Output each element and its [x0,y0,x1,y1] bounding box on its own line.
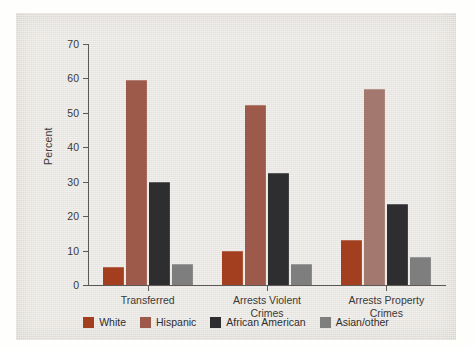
y-axis-title: Percent [42,127,54,165]
bar-group [341,44,431,285]
y-tick-label-40: 40 [67,141,79,153]
chart-legend: WhiteHispanicAfrican AmericanAsian/other [16,316,456,328]
legend-swatch-icon [210,317,221,328]
bar[interactable] [149,182,170,285]
x-tick [148,285,149,291]
y-tick-label-20: 20 [67,210,79,222]
bar[interactable] [387,204,408,285]
bar[interactable] [126,80,147,285]
y-tick-label-0: 0 [73,279,79,291]
legend-item[interactable]: Hispanic [140,316,196,328]
x-tick [267,285,268,291]
y-tick-20 [83,216,88,217]
legend-item[interactable]: White [83,316,126,328]
legend-label: White [99,316,126,328]
bar[interactable] [268,173,289,285]
legend-label: African American [226,316,305,328]
y-tick-label-10: 10 [67,245,79,257]
legend-label: Hispanic [156,316,196,328]
legend-item[interactable]: African American [210,316,305,328]
bar[interactable] [364,89,385,285]
bar[interactable] [172,264,193,285]
y-tick-label-30: 30 [67,176,79,188]
y-tick-label-60: 60 [67,72,79,84]
x-tick [386,285,387,291]
legend-swatch-icon [83,317,94,328]
bar[interactable] [103,267,124,285]
y-tick-60 [83,78,88,79]
x-axis-label: Transferred [88,294,208,307]
y-tick-label-70: 70 [67,38,79,50]
bar[interactable] [410,257,431,285]
bar[interactable] [291,264,312,285]
legend-item[interactable]: Asian/other [320,316,389,328]
y-tick-50 [83,113,88,114]
chart-panel: Percent 010203040506070 TransferredArres… [16,13,456,340]
plot-area: 010203040506070 TransferredArrests Viole… [88,44,446,285]
y-tick-label-50: 50 [67,107,79,119]
y-axis-line [88,44,89,285]
y-tick-0 [83,285,88,286]
legend-label: Asian/other [336,316,389,328]
y-tick-30 [83,182,88,183]
bar-group [222,44,312,285]
y-tick-70 [83,44,88,45]
y-tick-40 [83,147,88,148]
bar[interactable] [222,251,243,285]
legend-swatch-icon [320,317,331,328]
bar[interactable] [245,105,266,285]
y-tick-10 [83,251,88,252]
bar[interactable] [341,240,362,285]
bar-group [103,44,193,285]
legend-swatch-icon [140,317,151,328]
